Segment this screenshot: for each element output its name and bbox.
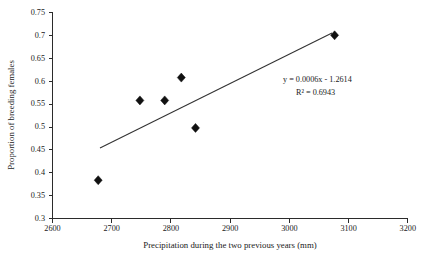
y-tick-label: 0.45	[31, 145, 45, 154]
x-tick-label: 3100	[340, 224, 356, 233]
y-tick-label: 0.3	[35, 214, 45, 223]
chart-canvas: 0.75 0.7 0.65 0.6 0.55 0.5 0.45 0.4 0.35…	[0, 0, 423, 267]
data-point	[177, 73, 185, 82]
y-axis-title: Proportion of breeding females	[6, 60, 16, 170]
data-point	[331, 31, 339, 40]
y-tick-label: 0.35	[31, 191, 45, 200]
x-tick-label: 2800	[163, 224, 179, 233]
x-tick-marks	[53, 219, 408, 223]
y-tick-label: 0.7	[35, 31, 45, 40]
x-tick-label: 3000	[281, 224, 297, 233]
data-point	[192, 123, 200, 132]
scatter-chart: 0.75 0.7 0.65 0.6 0.55 0.5 0.45 0.4 0.35…	[0, 0, 423, 267]
y-tick-label: 0.65	[31, 54, 45, 63]
data-point	[161, 96, 169, 105]
y-tick-label: 0.75	[31, 8, 45, 17]
x-tick-label: 2700	[104, 224, 120, 233]
x-tick-label: 2600	[44, 224, 60, 233]
x-axis-title: Precipitation during the two previous ye…	[143, 240, 317, 250]
x-tick-label: 2900	[222, 224, 238, 233]
r-squared-label: R² = 0.6943	[296, 88, 335, 97]
x-tick-label: 3200	[400, 224, 416, 233]
y-tick-label: 0.4	[35, 168, 45, 177]
trendline-equation-label: y = 0.0006x - 1.2614	[283, 75, 352, 84]
data-points	[94, 31, 338, 185]
y-tick-label: 0.55	[31, 99, 45, 108]
data-point	[94, 176, 102, 185]
y-tick-marks	[49, 13, 53, 219]
y-tick-label: 0.6	[35, 77, 45, 86]
y-tick-label: 0.5	[35, 122, 45, 131]
data-point	[136, 96, 144, 105]
